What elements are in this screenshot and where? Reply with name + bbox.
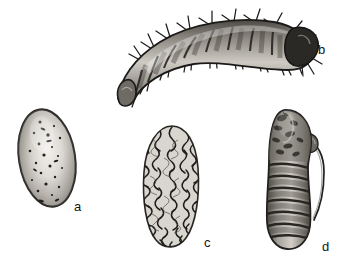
pupa-body: [258, 104, 326, 254]
figure-larva: [98, 6, 323, 110]
larva-body: [118, 20, 312, 105]
egg-body: [12, 105, 83, 211]
cocoon-body: [138, 120, 212, 254]
figure-label-a: a: [74, 200, 81, 213]
figure-label-b: b: [318, 43, 325, 56]
figure-label-c: c: [204, 236, 211, 249]
figure-label-d: d: [322, 240, 329, 253]
illustration-plate: a: [0, 0, 345, 268]
figure-cocoon: [134, 120, 214, 256]
larva-tail: [117, 80, 136, 106]
figure-pupa: [256, 104, 336, 256]
